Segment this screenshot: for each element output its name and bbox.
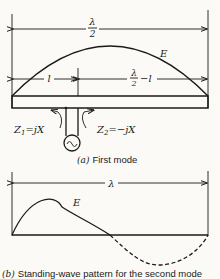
z1-arrow-icon xyxy=(51,110,58,112)
z1-pointer xyxy=(58,112,62,128)
remaining-num: λ xyxy=(130,68,137,78)
e-field-label: E xyxy=(159,48,168,59)
z2-pointer xyxy=(82,112,86,128)
l-label: l xyxy=(47,73,50,84)
e-field-negative-lobe xyxy=(110,235,208,265)
antenna-conductor xyxy=(12,96,208,108)
caption-a: (a)First mode xyxy=(77,154,137,165)
remaining-suffix: −l xyxy=(140,73,152,84)
figure-a-first-mode: λ 2 E l λ 2 −l Z1=jX Z2=−jX (a)First mod… xyxy=(12,10,208,165)
remaining-den: 2 xyxy=(130,79,136,88)
z1-label: Z1=jX xyxy=(13,124,45,137)
z2-arrow-icon xyxy=(84,110,94,112)
wavelength-label: λ xyxy=(107,178,114,189)
half-wavelength-den: 2 xyxy=(89,29,96,39)
antenna-modes-diagram: λ 2 E l λ 2 −l Z1=jX Z2=−jX (a)First mod… xyxy=(0,0,220,279)
ac-source-icon xyxy=(67,142,77,147)
figure-b-second-mode: λ E (b)Standing-wave pattern for the sec… xyxy=(2,171,208,279)
caption-b: (b)Standing-wave pattern for the second … xyxy=(2,268,202,279)
e-field-positive-lobe xyxy=(12,199,110,235)
e-field-label-b: E xyxy=(72,197,81,208)
feed-node-left xyxy=(65,107,68,110)
generator-circle xyxy=(64,135,80,151)
e-field-curve xyxy=(12,46,208,96)
z2-label: Z2=−jX xyxy=(96,124,136,137)
half-wavelength-num: λ xyxy=(88,16,95,27)
